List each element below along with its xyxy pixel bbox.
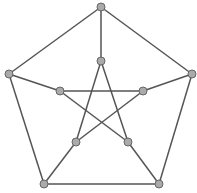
edge <box>76 61 101 142</box>
graph-node <box>188 70 196 78</box>
graph-node <box>40 180 48 188</box>
edge <box>101 7 192 74</box>
edges <box>9 7 192 184</box>
graph-node <box>139 87 147 95</box>
edge <box>128 142 159 184</box>
edge <box>9 74 60 91</box>
edge <box>9 74 44 184</box>
graph-node <box>97 3 105 11</box>
petersen-graph <box>0 0 197 193</box>
edge <box>44 142 76 184</box>
graph-node <box>56 87 64 95</box>
graph-node <box>97 57 105 65</box>
graph-node <box>5 70 13 78</box>
edge <box>60 91 128 142</box>
edge <box>9 7 101 74</box>
edge <box>101 61 128 142</box>
graph-node <box>124 138 132 146</box>
edge <box>76 91 143 142</box>
graph-node <box>72 138 80 146</box>
graph-node <box>155 180 163 188</box>
edge <box>159 74 192 184</box>
edge <box>143 74 192 91</box>
